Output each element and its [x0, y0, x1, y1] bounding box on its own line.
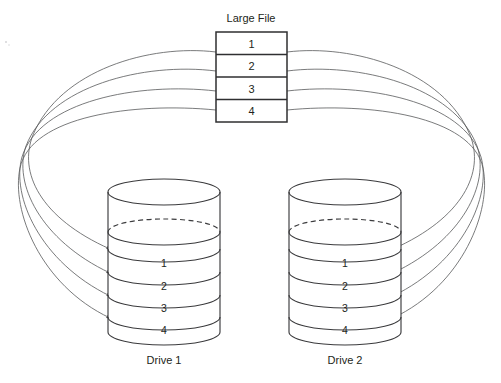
drive-2-cylinder: 1 2 3 4: [289, 179, 401, 345]
large-file-block-2-label: 2: [248, 60, 254, 72]
drive-1-band-1-label: 1: [161, 257, 167, 269]
drive-1-band-2-label: 2: [161, 280, 167, 292]
large-file-block-1-label: 1: [248, 38, 254, 50]
drive-1-label: Drive 1: [147, 354, 182, 366]
large-file-box: 1 2 3 4: [216, 32, 287, 122]
drive-2-band-3-label: 3: [342, 302, 348, 314]
drive-2-label: Drive 2: [328, 354, 363, 366]
diagram-canvas: Large File 1 2 3 4: [0, 0, 501, 383]
large-file-block-4-label: 4: [248, 105, 254, 117]
large-file-block-3-label: 3: [248, 83, 254, 95]
scan-artifact: [5, 41, 10, 46]
drive-2-band-2-label: 2: [342, 280, 348, 292]
drive-2-band-1-label: 1: [342, 257, 348, 269]
drive-1-band-4-label: 4: [161, 324, 167, 336]
drive-2-band-4-label: 4: [342, 324, 348, 336]
drive-1-band-3-label: 3: [161, 302, 167, 314]
large-file-title: Large File: [227, 12, 276, 24]
raid-mirroring-diagram: Large File 1 2 3 4: [0, 0, 501, 383]
drive-1-cylinder: 1 2 3 4: [108, 179, 220, 345]
